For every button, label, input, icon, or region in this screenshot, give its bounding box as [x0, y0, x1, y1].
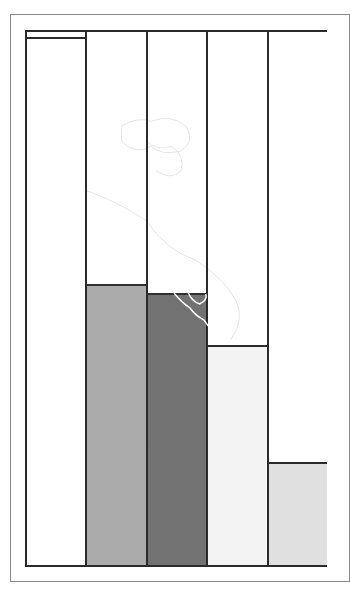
- bar-column-5: [269, 32, 327, 565]
- bar-1: [27, 37, 85, 565]
- plot-area: [25, 30, 327, 567]
- bar-3: [148, 293, 206, 565]
- bar-column-3: [148, 32, 208, 565]
- bar-5: [269, 462, 327, 565]
- bar-column-2: [87, 32, 147, 565]
- bar-column-1: [27, 32, 87, 565]
- bar-2: [87, 284, 145, 565]
- bar-4: [208, 345, 266, 565]
- bar-column-4: [208, 32, 268, 565]
